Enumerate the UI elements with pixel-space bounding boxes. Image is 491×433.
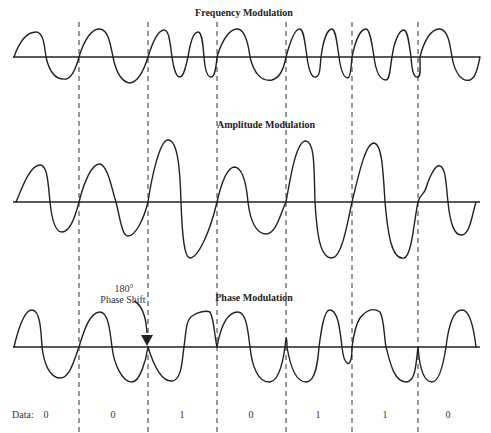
pm-title: Phase Modulation — [215, 292, 293, 303]
data-bit: 1 — [180, 409, 185, 420]
am-title: Amplitude Modulation — [217, 119, 315, 130]
modulation-diagram — [0, 0, 491, 433]
data-bit: 0 — [446, 409, 451, 420]
pm-waveform — [14, 310, 476, 383]
data-bit: 0 — [111, 409, 116, 420]
data-row-label: Data: — [12, 409, 34, 420]
data-bit: 0 — [249, 409, 254, 420]
phase-shift-label: Phase Shift — [100, 294, 145, 305]
fm-waveform — [14, 29, 480, 83]
data-bit: 1 — [316, 409, 321, 420]
data-bit: 0 — [44, 409, 49, 420]
baselines — [13, 57, 480, 347]
fm-title: Frequency Modulation — [195, 7, 293, 18]
am-waveform — [16, 140, 476, 258]
phase-shift-degrees: 180° — [115, 283, 134, 294]
data-bit: 1 — [383, 409, 388, 420]
phase-shift-arrow — [134, 301, 153, 346]
